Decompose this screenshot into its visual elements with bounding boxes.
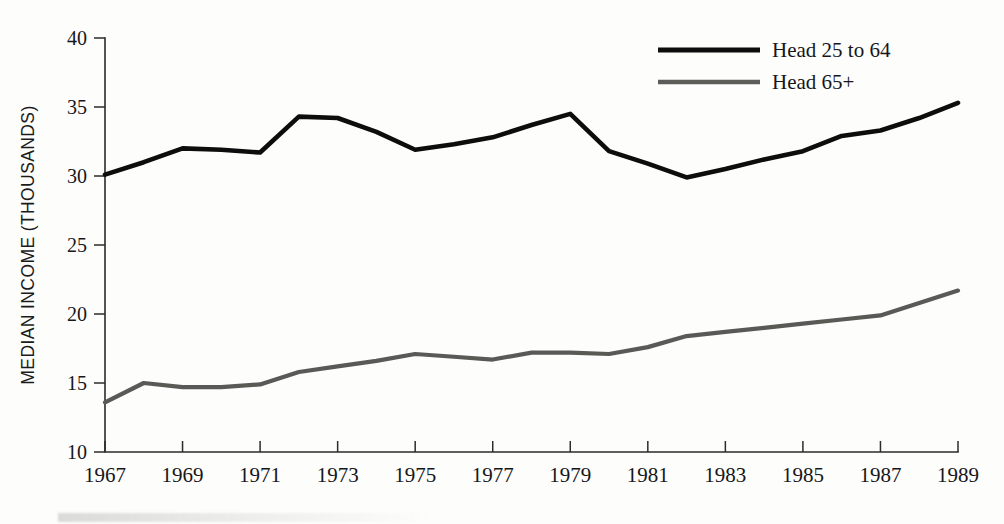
x-tick-label: 1989 xyxy=(937,463,979,487)
y-tick-label: 30 xyxy=(67,165,87,187)
x-tick-label: 1981 xyxy=(627,463,669,487)
x-tick-label: 1979 xyxy=(549,463,591,487)
x-tick-label: 1987 xyxy=(859,463,901,487)
y-tick-label: 20 xyxy=(67,303,87,325)
legend-label-head-65-plus: Head 65+ xyxy=(772,70,854,94)
figure-container: 10152025303540 1967196919711973197519771… xyxy=(0,0,1004,524)
series-line-head-65-plus xyxy=(105,291,958,403)
x-tick-label: 1969 xyxy=(162,463,204,487)
page-artifact-smudge xyxy=(58,513,488,522)
y-tick-label: 10 xyxy=(67,441,87,463)
x-tick-label: 1977 xyxy=(472,463,514,487)
x-axis-ticks xyxy=(105,441,958,452)
x-axis-tick-labels: 1967196919711973197519771979198119831985… xyxy=(84,463,979,487)
y-tick-label: 40 xyxy=(67,27,87,49)
legend-label-head-25-to-64: Head 25 to 64 xyxy=(772,38,891,62)
x-tick-label: 1967 xyxy=(84,463,126,487)
chart-axes xyxy=(105,38,958,452)
y-axis-title: MEDIAN INCOME (THOUSANDS) xyxy=(18,105,38,384)
chart-legend: Head 25 to 64 Head 65+ xyxy=(658,38,891,94)
y-axis-tick-labels: 10152025303540 xyxy=(67,27,87,463)
y-axis-ticks xyxy=(94,38,105,452)
x-tick-label: 1983 xyxy=(704,463,746,487)
line-chart: 10152025303540 1967196919711973197519771… xyxy=(0,0,1004,524)
y-tick-label: 15 xyxy=(67,372,87,394)
x-tick-label: 1985 xyxy=(782,463,824,487)
y-tick-label: 25 xyxy=(67,234,87,256)
x-tick-label: 1971 xyxy=(239,463,281,487)
y-tick-label: 35 xyxy=(67,96,87,118)
series-line-head-25-to-64 xyxy=(105,103,958,178)
x-tick-label: 1973 xyxy=(317,463,359,487)
x-tick-label: 1975 xyxy=(394,463,436,487)
